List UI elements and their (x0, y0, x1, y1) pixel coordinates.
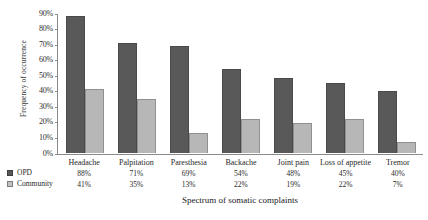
data-table-row-community: 41%35%13%22%19%22%7% (58, 180, 424, 190)
y-axis-tick-mark (55, 138, 58, 139)
data-table-cell: 19% (267, 180, 319, 190)
bar-group (215, 14, 267, 153)
legend-swatch-community-icon (7, 181, 13, 187)
x-axis-category-label: Tremor (372, 157, 424, 168)
plot-area: 0%10%20%30%40%50%60%70%80%90% (57, 14, 423, 155)
x-axis-title: Spectrum of somatic complaints (57, 195, 423, 205)
data-table-cell: 48% (267, 169, 319, 179)
legend-item-opd: OPD (7, 167, 53, 178)
bar-community (189, 133, 208, 153)
data-table-cell: 69% (163, 169, 215, 179)
y-axis-tick-mark (55, 45, 58, 46)
y-axis-tick-mark (55, 154, 58, 155)
bar-group (319, 14, 371, 153)
y-axis-tick-label: 30% (39, 102, 53, 111)
bar-community (293, 123, 312, 153)
bar-group (111, 14, 163, 153)
data-table-row-opd: 88%71%69%54%48%45%40% (58, 169, 424, 179)
y-axis-title: Frequency of occurrence (19, 4, 28, 154)
y-axis-tick-mark (55, 29, 58, 30)
x-axis-category-labels: HeadachePalpitationParesthesiaBackacheJo… (58, 157, 424, 168)
legend-label-community: Community (17, 178, 53, 189)
y-axis-tick-mark (55, 107, 58, 108)
legend-label-opd: OPD (17, 167, 32, 178)
bar-opd (326, 83, 345, 153)
x-axis-category-label: Paresthesia (163, 157, 215, 168)
legend: OPD Community (7, 167, 53, 189)
bar-community (85, 89, 104, 153)
bar-opd (66, 16, 85, 153)
bar-opd (378, 91, 397, 153)
data-table-cell: 35% (110, 180, 162, 190)
data-table-cell: 40% (372, 169, 424, 179)
data-table-cell: 88% (58, 169, 110, 179)
legend-item-community: Community (7, 178, 53, 189)
y-axis-tick-label: 50% (39, 71, 53, 80)
bars-layer (59, 14, 423, 153)
y-axis-tick-mark (55, 122, 58, 123)
data-table-cell: 54% (215, 169, 267, 179)
bar-opd (274, 78, 293, 153)
data-table-cell: 22% (215, 180, 267, 190)
data-table-cell: 71% (110, 169, 162, 179)
y-axis-tick-label: 70% (39, 40, 53, 49)
bar-community (397, 142, 416, 153)
data-table-cell: 22% (319, 180, 371, 190)
y-axis-tick-label: 40% (39, 86, 53, 95)
data-table-cell: 7% (372, 180, 424, 190)
bar-group (163, 14, 215, 153)
y-axis-tick-label: 60% (39, 55, 53, 64)
bar-opd (222, 69, 241, 153)
y-axis-tick-label: 20% (39, 117, 53, 126)
bar-group (267, 14, 319, 153)
bar-group (371, 14, 423, 153)
data-table-cell: 41% (58, 180, 110, 190)
bar-chart: Frequency of occurrence 0%10%20%30%40%50… (0, 0, 428, 220)
bar-community (345, 119, 364, 153)
data-table-cell: 45% (319, 169, 371, 179)
bar-opd (118, 43, 137, 153)
y-axis-tick-label: 0% (43, 149, 53, 158)
y-axis-tick-mark (55, 14, 58, 15)
x-axis-category-label: Palpitation (110, 157, 162, 168)
x-axis-category-label: Joint pain (267, 157, 319, 168)
legend-swatch-opd-icon (7, 170, 13, 176)
bar-group (59, 14, 111, 153)
bar-community (137, 99, 156, 153)
bar-community (241, 119, 260, 153)
bar-opd (170, 46, 189, 153)
y-axis-tick-label: 90% (39, 9, 53, 18)
y-axis-tick-label: 10% (39, 133, 53, 142)
y-axis-tick-mark (55, 60, 58, 61)
x-axis-category-label: Headache (58, 157, 110, 168)
x-axis-category-label: Backache (215, 157, 267, 168)
y-axis-tick-mark (55, 76, 58, 77)
data-table-cell: 13% (163, 180, 215, 190)
y-axis-tick-label: 80% (39, 24, 53, 33)
x-axis-category-label: Loss of appetite (319, 157, 371, 168)
y-axis-tick-mark (55, 91, 58, 92)
